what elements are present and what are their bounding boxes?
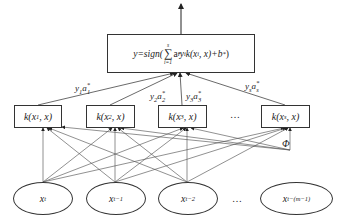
input-node-xt-1: xt−1 [86, 182, 146, 215]
kernel-ellipsis: … [230, 109, 240, 120]
svm-network-diagram: y=sign( s ∑ i=1 a*i yi k(xi , x)+b* ) y1… [0, 0, 344, 223]
kernel-node-3: k(x3, x) [158, 105, 207, 128]
input-node-xt-m-1: xt−(m−1) [260, 182, 333, 215]
output-decision-function: y=sign( s ∑ i=1 a*i yi k(xi , x)+b* ) [107, 34, 255, 73]
output-prefix: y=sign( [133, 49, 163, 59]
kernel-node-s: k(xs, x) [261, 105, 310, 128]
kernel-node-1: k(x1, x) [14, 105, 62, 128]
input-node-xt-2: xt−2 [158, 182, 218, 215]
summation-symbol: s ∑ i=1 [164, 42, 173, 65]
weight-label-s: ysa*s [245, 79, 259, 93]
kernel-node-2: k(x2, x) [86, 105, 135, 128]
input-node-xt: xt [13, 182, 73, 215]
mapping-phi-label: Φ [282, 138, 290, 149]
input-ellipsis: … [232, 193, 242, 204]
weight-label-3: y3a*3 [186, 89, 201, 103]
weight-label-1: y1a*1 [75, 81, 90, 95]
weight-label-2: y2a*2 [150, 89, 165, 103]
